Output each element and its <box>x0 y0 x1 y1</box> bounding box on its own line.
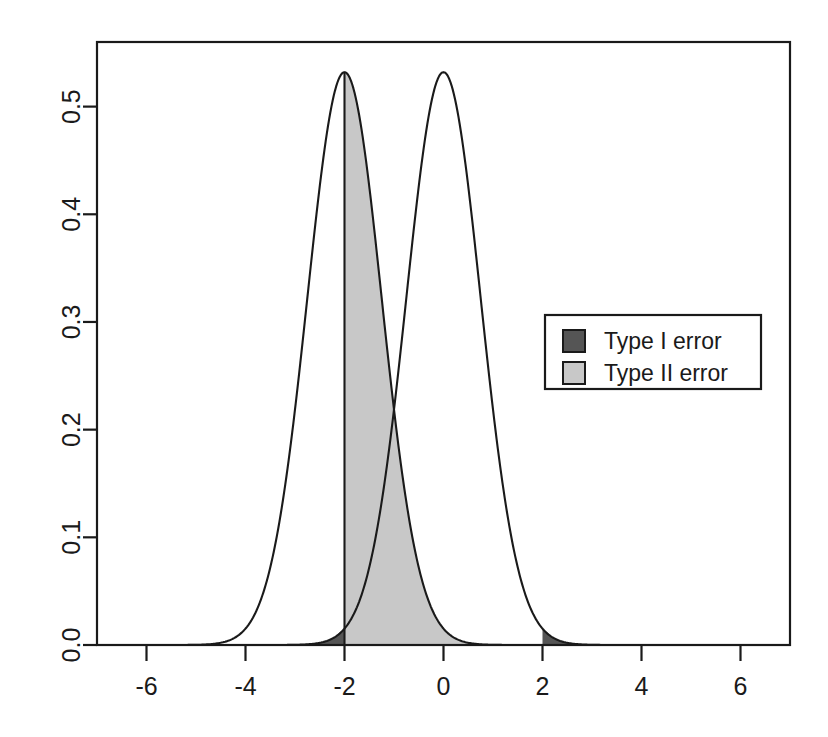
x-axis-tick-label: -2 <box>333 672 355 700</box>
y-axis-tick-label: 0.2 <box>57 412 85 447</box>
statistical-power-chart: 0.00.10.20.30.40.5 -6-4-20246 Type I err… <box>0 0 828 737</box>
x-axis-tick-label: 0 <box>437 672 451 700</box>
legend-label-type-2-error: Type II error <box>604 360 728 386</box>
x-axis-tick-label: -6 <box>135 672 157 700</box>
y-axis-tick-label: 0.4 <box>57 197 85 232</box>
legend-label-type-1-error: Type I error <box>604 328 722 354</box>
y-axis-tick-label: 0.3 <box>57 305 85 340</box>
legend-swatch-type-2-error <box>563 362 585 384</box>
x-axis-tick-label: -4 <box>234 672 256 700</box>
x-axis-tick-label: 2 <box>536 672 550 700</box>
y-axis-tick-label: 0.1 <box>57 520 85 555</box>
legend-swatch-type-1-error <box>563 330 585 352</box>
legend: Type I error Type II error <box>545 315 761 389</box>
y-axis-tick-label: 0.5 <box>57 89 85 124</box>
y-axis-tick-label: 0.0 <box>57 628 85 663</box>
x-axis-tick-label: 4 <box>635 672 649 700</box>
x-axis-tick-label: 6 <box>734 672 748 700</box>
